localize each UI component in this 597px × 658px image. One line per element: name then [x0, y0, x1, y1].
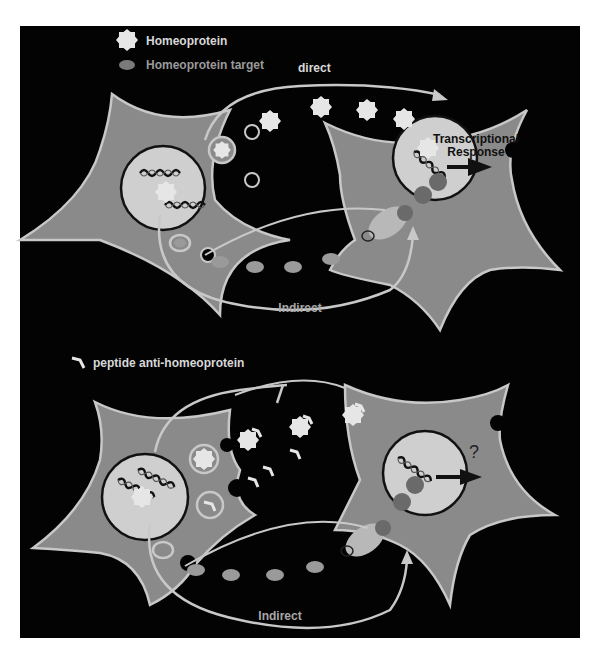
vesicle-homeoprotein-icon — [193, 448, 215, 470]
homeoprotein-target — [406, 476, 424, 494]
direct-label: direct — [298, 61, 331, 75]
target-secreted — [211, 256, 229, 268]
homeoprotein-target — [397, 205, 413, 221]
indirect-label: Indirect — [278, 301, 321, 315]
homeoprotein-star-icon — [310, 96, 332, 118]
receptor-pit — [245, 125, 259, 139]
vesicle — [153, 542, 173, 558]
target-secreted — [187, 564, 205, 576]
homeoprotein-star-icon — [393, 108, 415, 130]
response-label: Response — [447, 145, 505, 159]
receptor-pit — [245, 173, 259, 187]
target-secreted — [322, 253, 340, 265]
homeoprotein-star-icon — [116, 29, 138, 51]
legend-homeoprotein: Homeoprotein — [116, 29, 227, 51]
inhibition-bar-icon — [277, 385, 283, 403]
bottom-panel: peptide anti-homeoprotein ? — [33, 356, 555, 628]
legend-target: Homeoprotein target — [119, 58, 264, 72]
homeoprotein-target-icon — [119, 60, 135, 70]
receptor-pit — [490, 415, 506, 431]
receptor-pit — [220, 438, 234, 452]
legend-peptide: peptide anti-homeoprotein — [72, 356, 244, 370]
homeoprotein-target — [393, 493, 411, 511]
vesicle-content — [174, 239, 186, 248]
peptide-icon — [290, 450, 300, 459]
legend-peptide-label: peptide anti-homeoprotein — [93, 356, 244, 370]
legend-target-label: Homeoprotein target — [146, 58, 264, 72]
vesicle-homeoprotein-icon — [213, 141, 231, 159]
homeoprotein-peptide-complex-icon — [289, 416, 311, 438]
homeoprotein-peptide-complex-icon — [237, 429, 259, 451]
homeoprotein-target — [375, 520, 391, 536]
homeoprotein-star-icon — [259, 110, 281, 132]
target-secreted — [222, 569, 240, 581]
homeoprotein-star-icon — [356, 99, 378, 121]
receptor-pit — [228, 479, 246, 497]
peptide-icon — [263, 467, 273, 476]
homeoprotein-star-icon — [155, 181, 177, 203]
homeoprotein-star-icon — [131, 486, 153, 508]
transcriptional-label: Transcriptional — [433, 132, 519, 146]
homeoprotein-diagram: Homeoprotein Homeoprotein target — [0, 0, 597, 658]
indirect-label: Indirect — [258, 609, 301, 623]
target-secreted — [306, 561, 324, 573]
direct-arrow-icon — [432, 89, 448, 101]
target-secreted — [284, 261, 302, 273]
peptide-icon — [72, 358, 84, 368]
target-secreted — [266, 569, 284, 581]
homeoprotein-target — [429, 173, 447, 191]
question-mark: ? — [469, 442, 479, 462]
homeoprotein-target — [414, 186, 432, 204]
legend-homeoprotein-label: Homeoprotein — [146, 34, 227, 48]
target-secreted — [246, 261, 264, 273]
top-panel: Homeoprotein Homeoprotein target — [20, 29, 560, 330]
peptide-icon — [248, 478, 258, 487]
